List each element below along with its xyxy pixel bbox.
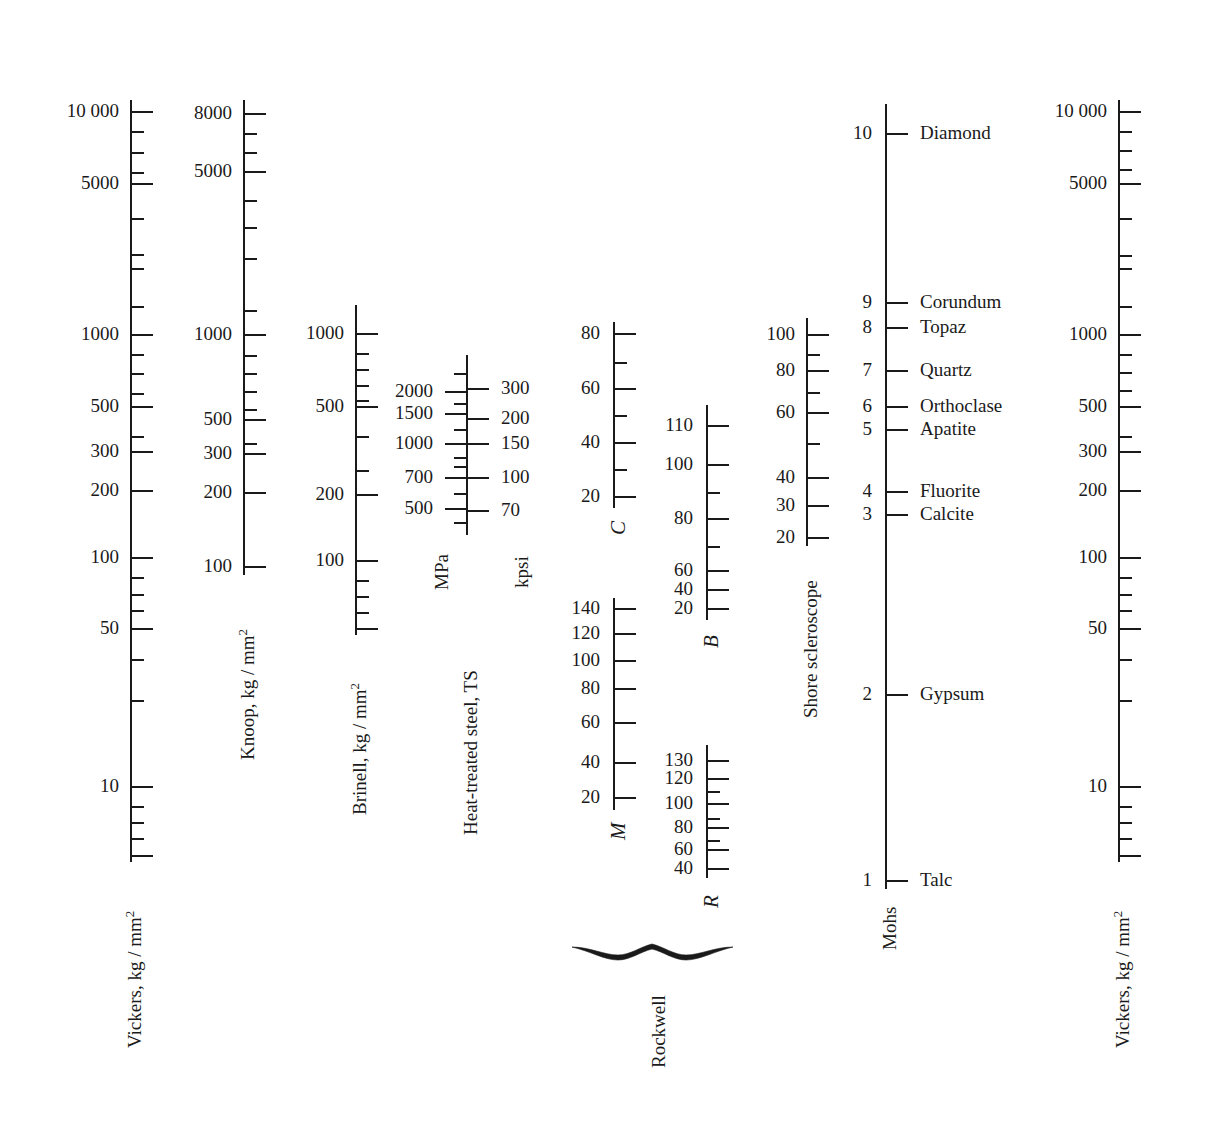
tick-label: 5000 xyxy=(156,161,232,180)
tick-mark xyxy=(445,508,467,510)
tick-mark xyxy=(356,400,369,402)
tick-mark xyxy=(886,514,908,516)
tick-mark xyxy=(807,334,829,336)
axis-caption-brinell: Brinell, kg / mm2 xyxy=(350,683,369,815)
tick-mark xyxy=(445,477,467,479)
axis-spine-shore-scleroscope xyxy=(806,318,808,546)
tick-mark xyxy=(807,354,820,356)
tick-label: 1 xyxy=(842,870,872,889)
tick-mark xyxy=(356,470,369,472)
tick-label-kpsi: 200 xyxy=(501,408,563,427)
tick-mark xyxy=(467,388,489,390)
tick-mark xyxy=(614,797,636,799)
tick-mark xyxy=(707,492,720,494)
tick-label: 20 xyxy=(641,598,693,617)
tick-mark xyxy=(131,822,144,824)
tick-label: 1000 xyxy=(268,323,344,342)
tick-label: 100 xyxy=(637,793,693,812)
tick-mark xyxy=(807,537,829,539)
tick-mark xyxy=(131,183,153,185)
tick-mark xyxy=(707,840,720,842)
tick-mark xyxy=(614,388,636,390)
tick-mark xyxy=(707,868,729,870)
tick-label: 120 xyxy=(544,623,600,642)
tick-mark xyxy=(886,133,908,135)
axis-caption-vickers-right: Vickers, kg / mm2 xyxy=(1113,911,1132,1048)
tick-mark xyxy=(1119,169,1132,171)
tick-label: 20 xyxy=(544,787,600,806)
tick-mark xyxy=(356,494,378,496)
tick-mark xyxy=(707,546,720,548)
axis-spine-rockwell-m xyxy=(613,598,615,810)
mineral-label: Talc xyxy=(920,870,952,889)
tick-mark xyxy=(614,469,627,471)
tick-mark xyxy=(467,477,489,479)
tick-mark xyxy=(614,415,627,417)
axis-caption-heat-treated-steel: Heat-treated steel, TS xyxy=(461,670,480,835)
tick-label: 40 xyxy=(637,858,693,877)
rockwell-group-brace xyxy=(570,935,735,969)
tick-mark xyxy=(614,633,636,635)
mineral-label: Orthoclase xyxy=(920,396,1002,415)
tick-mark xyxy=(131,436,144,438)
mineral-label: Gypsum xyxy=(920,684,984,703)
tick-mark xyxy=(807,505,829,507)
tick-mark xyxy=(1119,838,1132,840)
tick-mark xyxy=(131,700,144,702)
tick-mark xyxy=(131,131,144,133)
tick-label: 300 xyxy=(1015,441,1107,460)
tick-label: 8000 xyxy=(156,103,232,122)
tick-label: 300 xyxy=(27,441,119,460)
tick-mark xyxy=(886,694,908,696)
axis-spine-rockwell-r xyxy=(706,745,708,878)
tick-mark xyxy=(356,353,369,355)
tick-mark xyxy=(1119,659,1132,661)
tick-label: 60 xyxy=(641,560,693,579)
tick-mark xyxy=(707,464,729,466)
tick-mark xyxy=(244,409,257,411)
tick-label-mpa: 1000 xyxy=(371,433,433,452)
tick-mark xyxy=(1119,806,1132,808)
tick-mark xyxy=(1119,406,1141,408)
tick-mark xyxy=(614,660,636,662)
tick-mark xyxy=(244,355,257,357)
tick-mark xyxy=(131,152,144,154)
tick-mark xyxy=(707,760,729,762)
tick-mark xyxy=(1119,577,1132,579)
tick-mark xyxy=(445,391,467,393)
tick-mark xyxy=(356,369,369,371)
tick-mark xyxy=(244,258,257,260)
tick-mark xyxy=(131,577,144,579)
mineral-label: Fluorite xyxy=(920,481,980,500)
axis-spine-rockwell-b xyxy=(706,405,708,620)
tick-mark xyxy=(886,880,908,882)
tick-mark xyxy=(807,412,829,414)
tick-mark xyxy=(1119,306,1132,308)
tick-mark xyxy=(614,362,627,364)
tick-mark xyxy=(244,391,257,393)
tick-label: 9 xyxy=(842,292,872,311)
tick-mark xyxy=(1119,334,1141,336)
tick-label: 60 xyxy=(544,712,600,731)
tick-mark xyxy=(707,818,720,820)
tick-mark xyxy=(1119,390,1132,392)
tick-label: 80 xyxy=(743,360,795,379)
tick-label: 110 xyxy=(641,415,693,434)
tick-label: 40 xyxy=(743,467,795,486)
tick-mark xyxy=(886,302,908,304)
tick-mark xyxy=(244,133,257,135)
tick-label: 200 xyxy=(27,480,119,499)
tick-mark xyxy=(356,333,378,335)
tick-label: 40 xyxy=(544,752,600,771)
tick-mark xyxy=(244,566,266,568)
tick-label: 20 xyxy=(743,527,795,546)
axis-spine-mohs xyxy=(885,104,887,889)
tick-mark xyxy=(1119,786,1141,788)
tick-label: 10 xyxy=(27,776,119,795)
tick-mark xyxy=(356,628,378,630)
mineral-label: Quartz xyxy=(920,360,972,379)
axis-caption-mohs: Mohs xyxy=(880,907,899,950)
tick-mark xyxy=(131,406,153,408)
tick-label: 100 xyxy=(1015,547,1107,566)
tick-mark xyxy=(131,334,153,336)
